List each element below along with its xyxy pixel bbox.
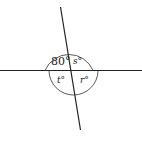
angle-label-80: 80° xyxy=(51,55,71,68)
angle-label-s: s° xyxy=(73,56,82,66)
angle-diagram: 80° s° t° r° xyxy=(0,0,142,145)
slanted-line xyxy=(61,7,81,130)
angle-label-t: t° xyxy=(57,75,65,85)
angle-label-r: r° xyxy=(80,75,89,85)
